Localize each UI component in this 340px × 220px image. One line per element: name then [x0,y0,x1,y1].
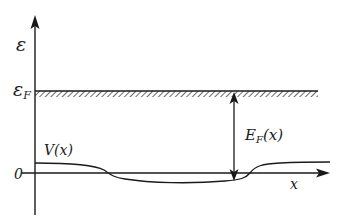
x-axis-label: x [290,176,298,192]
fermi-level-subscript: F [22,89,31,102]
ef-double-arrow [230,92,239,181]
y-axis [31,15,40,215]
local-fermi-energy-label: EF(x) [244,126,283,145]
fermi-level-label: εF [13,78,31,102]
origin-label: 0 [14,166,23,182]
fermi-level-line [35,91,318,97]
ef-argument: (x) [263,126,283,144]
potential-label: V(x) [44,142,73,158]
x-axis [22,169,330,178]
fermi-level-symbol: ε [13,78,23,100]
energy-diagram: ε εF V(x) EF(x) 0 x [0,0,340,220]
ef-symbol: E [244,126,256,144]
y-axis-label: ε [16,33,26,55]
